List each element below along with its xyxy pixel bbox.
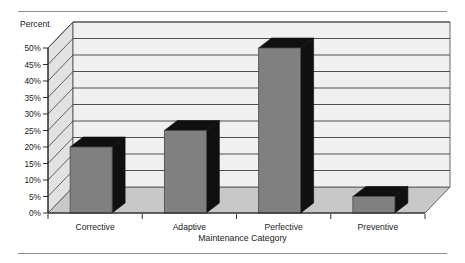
y-axis-tick-label: 30% [24, 109, 41, 119]
y-axis-tick-label: 25% [24, 126, 41, 136]
y-axis-tick-label: 20% [24, 142, 41, 152]
y-axis-unit-label: Percent [20, 19, 50, 29]
bar-side-face [301, 38, 314, 213]
y-axis-tick-label: 45% [24, 60, 41, 70]
bar-preventive [353, 187, 408, 214]
bar-side-face [206, 121, 219, 214]
bar-adaptive [164, 121, 219, 214]
y-axis-tick-label: 15% [24, 159, 41, 169]
bar-front-face [70, 147, 112, 213]
x-axis-category-label: Corrective [76, 222, 115, 232]
x-axis-title: Maintenance Category [198, 233, 287, 243]
bar-corrective [70, 137, 125, 213]
x-axis-category-label: Perfective [265, 222, 303, 232]
x-axis-category-label: Adaptive [173, 222, 207, 232]
bar-perfective [259, 38, 314, 213]
bar-chart-3d: 0%5%10%15%20%25%30%35%40%45%50% Percent … [0, 0, 465, 263]
figure-container: 0%5%10%15%20%25%30%35%40%45%50% Percent … [0, 0, 465, 263]
y-axis-tick-label: 50% [24, 43, 41, 53]
y-axis-tick-label: 40% [24, 76, 41, 86]
bar-front-face [164, 131, 206, 214]
y-axis-tick-label: 0% [29, 208, 42, 218]
y-axis-tick-label: 5% [29, 192, 42, 202]
bar-side-face [112, 137, 125, 213]
bar-front-face [353, 197, 395, 214]
x-axis-category-label: Preventive [358, 222, 399, 232]
axis-ticks: 0%5%10%15%20%25%30%35%40%45%50% [24, 43, 48, 218]
y-axis-tick-label: 10% [24, 175, 41, 185]
bar-front-face [259, 48, 301, 213]
y-axis-tick-label: 35% [24, 93, 41, 103]
category-ticks [48, 214, 425, 219]
